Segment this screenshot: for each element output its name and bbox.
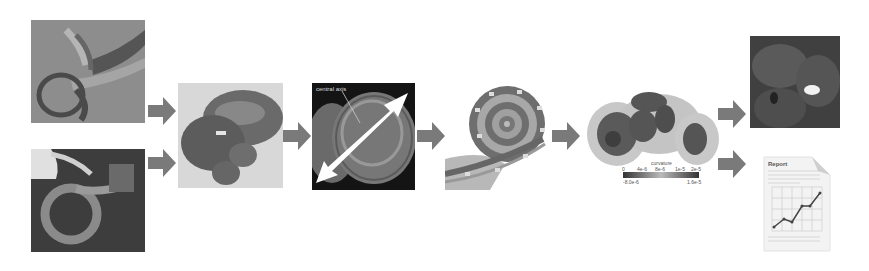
colorbar-tick: 2e-5 xyxy=(691,166,701,172)
input-scan-2-image xyxy=(31,149,145,252)
segmented-cochlea-image xyxy=(178,83,283,188)
arrow-icon xyxy=(148,97,176,125)
arrow-icon xyxy=(718,150,746,178)
input-scan-1-image xyxy=(31,20,145,123)
heatmap-image: curvature 0 4e-6 8e-6 1e-5 2e-5 -8.0e-6 … xyxy=(587,84,719,188)
central-axis-label: central axis xyxy=(316,86,346,92)
arrow-icon xyxy=(417,122,445,150)
arrow-icon xyxy=(283,122,311,150)
arrow-icon xyxy=(552,122,580,150)
central-axis-image: central axis xyxy=(312,83,415,190)
output-report-document: Report xyxy=(760,153,834,253)
colorbar-max: 1.6e-5 xyxy=(687,179,701,185)
arrow-icon xyxy=(148,149,176,177)
colorbar-tick: 0 xyxy=(622,166,625,172)
colorbar-tick: 4e-6 xyxy=(637,166,647,172)
colorbar-tick: 1e-5 xyxy=(675,166,685,172)
colorbar-min: -8.0e-6 xyxy=(623,179,639,185)
unrolled-spiral-image xyxy=(445,84,550,190)
colorbar xyxy=(623,172,699,178)
output-visualization-image xyxy=(750,36,840,128)
arrow-icon xyxy=(718,100,746,128)
report-title: Report xyxy=(768,161,787,167)
colorbar-tick: 8e-6 xyxy=(655,166,665,172)
